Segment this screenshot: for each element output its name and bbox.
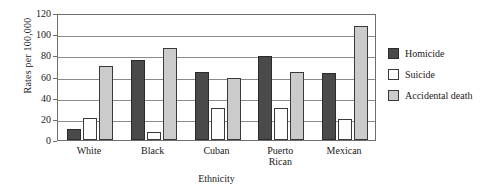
x-axis-title: Ethnicity: [57, 173, 376, 184]
bar-mexican-suicide: [338, 119, 352, 140]
legend-swatch-icon: [388, 90, 399, 101]
bar-black-homicide: [131, 60, 145, 140]
y-axis-tick-label: 120: [11, 9, 51, 19]
bar-cuban-homicide: [195, 72, 209, 140]
y-axis-tick-label: 40: [11, 94, 51, 104]
bar-white-homicide: [67, 129, 81, 140]
x-axis-tick-label: Black: [121, 145, 185, 156]
bar-puerto-rican-homicide: [258, 56, 272, 140]
legend-swatch-icon: [388, 69, 399, 80]
legend-swatch-icon: [388, 48, 399, 59]
x-axis-tick-label: Mexican: [312, 145, 376, 156]
x-axis-tick-label: White: [57, 145, 121, 156]
plot-area: [57, 14, 376, 141]
gridline: [58, 36, 375, 37]
y-axis-tick-label: 100: [11, 30, 51, 40]
bar-puerto-rican-suicide: [274, 108, 288, 140]
gridline: [58, 57, 375, 58]
y-axis-tick-label: 80: [11, 51, 51, 61]
bar-white-suicide: [83, 118, 97, 140]
y-axis-tick-mark: [53, 141, 57, 142]
bar-cuban-suicide: [211, 108, 225, 140]
y-axis-tick-label: 20: [11, 115, 51, 125]
legend-item: Homicide: [388, 48, 472, 59]
x-axis-tick-label: Cuban: [185, 145, 249, 156]
bar-black-suicide: [147, 132, 161, 140]
legend: HomicideSuicideAccidental death: [388, 48, 472, 111]
bar-mexican-homicide: [322, 73, 336, 140]
bar-cuban-accidental-death: [227, 78, 241, 140]
legend-item: Suicide: [388, 69, 472, 80]
x-axis-tick-label: Puerto Rican: [248, 145, 312, 167]
legend-label: Homicide: [405, 48, 444, 59]
bar-white-accidental-death: [99, 66, 113, 140]
legend-label: Accidental death: [405, 90, 472, 101]
bar-chart-figure: Rates per 100,000 020406080100120 WhiteB…: [0, 0, 499, 194]
legend-label: Suicide: [405, 69, 435, 80]
bar-black-accidental-death: [163, 48, 177, 140]
bar-puerto-rican-accidental-death: [290, 72, 304, 140]
bar-mexican-accidental-death: [354, 26, 368, 140]
y-axis-tick-label: 0: [11, 136, 51, 146]
legend-item: Accidental death: [388, 90, 472, 101]
y-axis-tick-label: 60: [11, 73, 51, 83]
